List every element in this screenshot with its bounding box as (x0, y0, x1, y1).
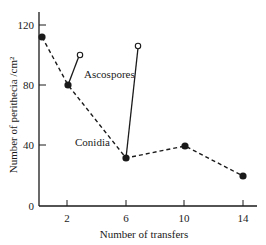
y-tick-label-40: 40 (23, 139, 35, 151)
x-tick-label-10: 10 (179, 212, 191, 224)
x-axis-label: Number of transfers (100, 228, 189, 240)
y-tick-label-120: 120 (18, 19, 35, 31)
x-tick-label-14: 14 (238, 212, 250, 224)
y-ticks (39, 25, 46, 145)
perithecia-line-chart: 120 80 40 0 2 6 10 14 Number of transfer… (0, 0, 266, 245)
x-tick-label-2: 2 (64, 212, 70, 224)
ascospores-markers (77, 43, 140, 57)
conidia-series-line (42, 37, 243, 176)
ascospores-annotation: Ascospores (84, 68, 135, 80)
x-ticks (67, 200, 243, 206)
y-axis-label: Number of perithecia /cm² (7, 56, 19, 173)
conidia-annotation: Conidia (75, 136, 110, 148)
x-tick-label-6: 6 (123, 212, 129, 224)
y-tick-label-80: 80 (23, 79, 35, 91)
conidia-markers (38, 33, 246, 179)
y-tick-label-0: 0 (29, 200, 35, 212)
ascospores-branch-2 (126, 48, 138, 158)
ascospores-branch-1 (68, 56, 79, 85)
